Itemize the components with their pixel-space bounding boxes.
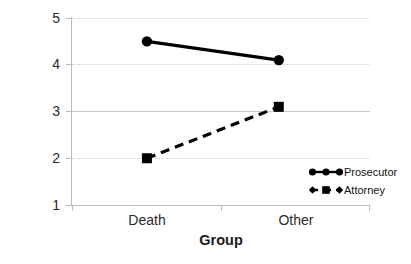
legend-item-attorney: Attorney	[308, 181, 408, 199]
x-tick-mark-center	[221, 205, 222, 211]
y-tick-label-4: 4	[38, 57, 60, 71]
legend-label-prosecutor: Prosecutor	[344, 167, 397, 178]
y-tick-label-1: 1	[38, 198, 60, 212]
gridline-5	[72, 18, 370, 19]
legend-item-prosecutor: Prosecutor	[308, 163, 408, 181]
gridline-3	[72, 111, 370, 112]
y-axis-tick-labels: 5 4 3 2 1	[34, 0, 60, 264]
y-tick-label-3: 3	[38, 104, 60, 118]
x-tick-mark-left	[72, 205, 73, 211]
legend-key-prosecutor-icon	[308, 164, 344, 180]
legend-label-attorney: Attorney	[344, 185, 385, 196]
x-tick-mark-right	[369, 205, 370, 211]
gridline-4	[72, 64, 370, 65]
x-tick-label-death: Death	[102, 212, 192, 228]
line-chart: Rating as "Convincing" 5 4 3 2 1 Death O…	[0, 0, 411, 264]
x-axis-title: Group	[72, 232, 370, 248]
y-tick-label-2: 2	[38, 151, 60, 165]
x-tick-label-other: Other	[251, 212, 341, 228]
chart-legend: Prosecutor Attorney	[308, 163, 408, 199]
legend-key-attorney-icon	[308, 182, 344, 198]
y-tick-label-5: 5	[38, 11, 60, 25]
gridline-2	[72, 158, 370, 159]
